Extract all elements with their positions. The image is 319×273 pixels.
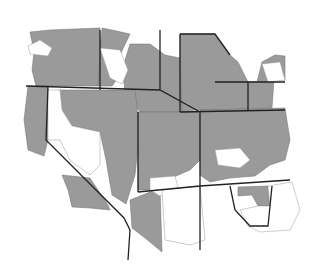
- western-us-county-map: [0, 0, 319, 273]
